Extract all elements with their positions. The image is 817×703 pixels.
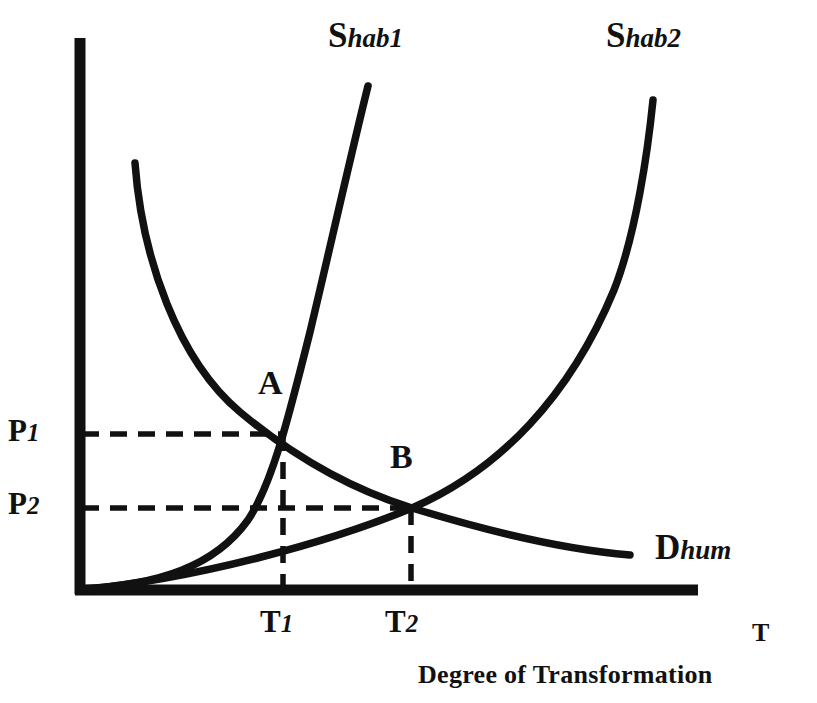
curve-label-supply-2-sub: hab2 [625, 23, 681, 53]
quantity-label-t2: T2 [385, 606, 418, 637]
equilibrium-label-b: B [390, 440, 413, 474]
equilibrium-label-a: A [258, 366, 283, 400]
price-label-p2-main: P [8, 486, 27, 521]
quantity-label-t1: T1 [260, 606, 293, 637]
price-label-p2: P2 [8, 488, 39, 519]
x-axis-caption: Degree of Transformation [418, 662, 713, 688]
curve-label-demand-sub: hum [680, 535, 731, 565]
curve-label-supply-2-main: S [606, 16, 625, 55]
quantity-label-t1-main: T [260, 604, 281, 639]
curve-label-supply-1-main: S [328, 16, 347, 55]
supply-curve-shab2 [80, 100, 653, 590]
curve-label-supply-2: Shab2 [606, 18, 681, 53]
price-label-p1-sub: 1 [27, 419, 40, 446]
price-label-p2-sub: 2 [27, 492, 40, 519]
diagram-canvas [0, 0, 817, 703]
supply-curve-shab1 [80, 86, 368, 589]
quantity-label-t1-sub: 1 [281, 610, 294, 637]
curve-label-demand: Dhum [655, 530, 731, 565]
price-label-p1-main: P [8, 413, 27, 448]
x-axis-symbol: T [752, 620, 769, 646]
curve-label-supply-1: Shab1 [328, 18, 403, 53]
curve-label-supply-1-sub: hab1 [347, 23, 403, 53]
curve-label-demand-main: D [655, 528, 680, 567]
quantity-label-t2-sub: 2 [406, 610, 419, 637]
economics-supply-demand-diagram: Shab1 Shab2 Dhum A B P1 P2 T1 T2 T Degre… [0, 0, 817, 703]
demand-curve-dhum [135, 163, 630, 555]
quantity-label-t2-main: T [385, 604, 406, 639]
price-label-p1: P1 [8, 415, 39, 446]
